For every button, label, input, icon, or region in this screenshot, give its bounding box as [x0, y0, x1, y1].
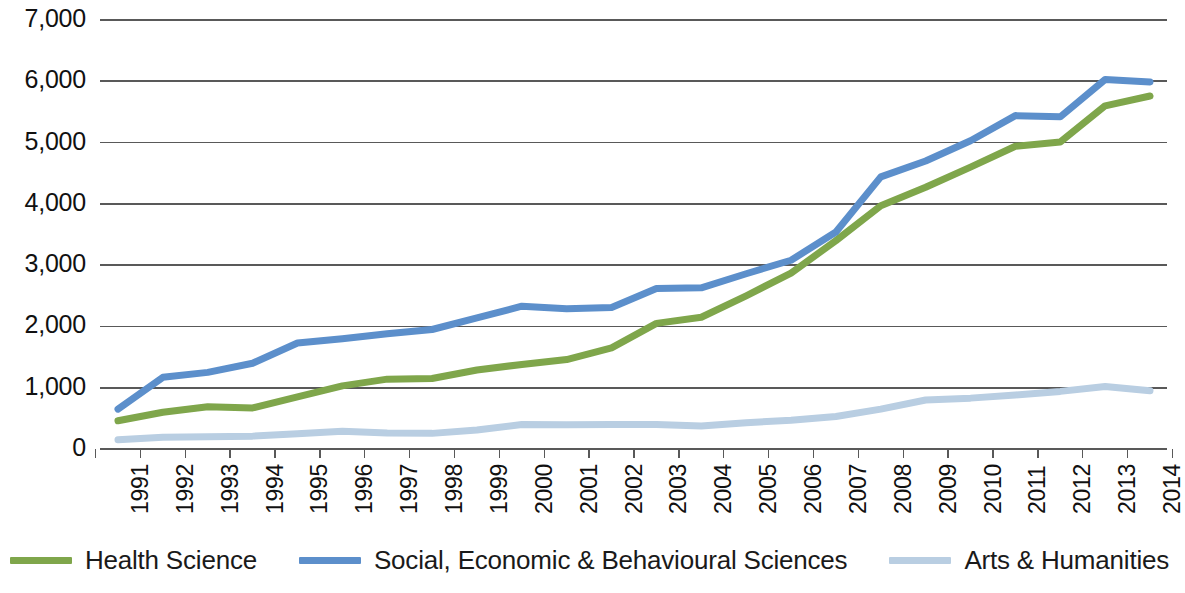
legend-color-swatch-icon	[299, 557, 361, 564]
legend-item-label: Health Science	[85, 545, 257, 576]
x-axis-tick-label: 2014	[1159, 464, 1185, 514]
x-axis-tick-label: 1995	[306, 464, 333, 514]
x-axis-tick-label: 2008	[890, 464, 917, 514]
x-axis-tick-label: 1992	[172, 464, 199, 514]
x-axis-tick-label: 1996	[351, 464, 378, 514]
x-axis-tick-label: 2004	[710, 464, 737, 514]
x-axis-tick-label: 1993	[217, 464, 244, 514]
legend-item-label: Arts & Humanities	[964, 545, 1169, 576]
x-axis-tick-label: 2007	[845, 464, 872, 514]
x-axis-tick-label: 2003	[665, 464, 692, 514]
x-axis-tick-label: 2012	[1069, 464, 1096, 514]
chart-legend: Health ScienceSocial, Economic & Behavio…	[0, 540, 1179, 580]
x-axis-tick-label: 2013	[1114, 464, 1141, 514]
x-axis-tick-label: 2006	[800, 464, 827, 514]
x-axis-tick-label: 1997	[396, 464, 423, 514]
x-axis-tick-label: 2009	[935, 464, 962, 514]
legend-color-swatch-icon	[889, 557, 951, 564]
x-axis-tick-label: 2005	[755, 464, 782, 514]
x-axis-tick-label: 1998	[441, 464, 468, 514]
x-axis-tick-label: 2011	[1024, 466, 1051, 514]
x-axis-tick-label: 2000	[531, 464, 558, 514]
x-axis-tick-label: 1999	[486, 464, 513, 514]
x-axis-tick-label: 2002	[621, 464, 648, 514]
x-axis-tick-label: 1994	[262, 464, 289, 514]
legend-item[interactable]: Arts & Humanities	[889, 545, 1169, 576]
legend-item[interactable]: Social, Economic & Behavioural Sciences	[299, 545, 847, 576]
x-axis-tick-label: 1991	[127, 464, 154, 514]
x-axis-tick-label: 2001	[576, 464, 603, 514]
legend-item[interactable]: Health Science	[10, 545, 257, 576]
x-axis-tick-label: 2010	[980, 464, 1007, 514]
legend-color-swatch-icon	[10, 557, 72, 564]
legend-item-label: Social, Economic & Behavioural Sciences	[374, 545, 847, 576]
